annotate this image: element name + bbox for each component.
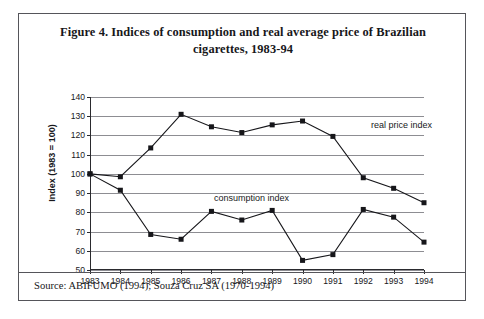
- data-point-marker: [391, 215, 396, 220]
- gridline: [90, 270, 424, 271]
- x-axis-tick-label: 1993: [384, 276, 403, 286]
- data-point-marker: [148, 232, 153, 237]
- figure-container: Figure 4. Indices of consumption and rea…: [18, 13, 466, 301]
- data-point-marker: [361, 207, 366, 212]
- data-point-marker: [422, 200, 427, 205]
- y-axis-tick-label: 120: [71, 130, 85, 140]
- data-point-marker: [118, 174, 123, 179]
- data-point-marker: [300, 119, 305, 124]
- chart: Index (1983 = 100) 140130120110100908070…: [19, 74, 465, 274]
- x-axis-tick-label: 1994: [414, 276, 433, 286]
- data-point-marker: [361, 175, 366, 180]
- plot-area: 1401301201101009080706050 19831984198519…: [90, 97, 424, 270]
- y-axis-tick-label: 140: [71, 92, 85, 102]
- y-axis-tick-label: 60: [75, 246, 85, 256]
- series-label-consumption: consumption index: [214, 193, 289, 203]
- source-divider: [19, 272, 465, 273]
- data-point-marker: [88, 171, 93, 176]
- series-label-real-price: real price index: [371, 120, 432, 130]
- data-point-marker: [118, 188, 123, 193]
- figure-title-line-2: cigarettes, 1983-94: [193, 42, 293, 56]
- x-axis-tick-label: 1992: [354, 276, 373, 286]
- y-axis-title: Index (1983 = 100): [47, 108, 57, 218]
- data-point-marker: [209, 209, 214, 214]
- data-point-marker: [179, 237, 184, 242]
- y-axis-tick-label: 80: [75, 207, 85, 217]
- data-point-marker: [270, 208, 275, 213]
- data-point-marker: [179, 112, 184, 117]
- data-point-marker: [148, 145, 153, 150]
- y-axis-tick-label: 110: [71, 150, 85, 160]
- data-point-marker: [330, 252, 335, 257]
- x-axis-tick-label: 1991: [323, 276, 342, 286]
- x-axis-tick-label: 1990: [293, 276, 312, 286]
- y-axis-tick-label: 70: [75, 227, 85, 237]
- data-point-marker: [391, 186, 396, 191]
- figure-title-line-1: Figure 4. Indices of consumption and rea…: [60, 25, 426, 39]
- y-axis-tick-label: 130: [71, 111, 85, 121]
- y-axis-tick-label: 100: [71, 169, 85, 179]
- data-point-marker: [239, 218, 244, 223]
- data-point-marker: [239, 130, 244, 135]
- source-note: Source: ABIFUMO (1994); Souza Cruz SA (1…: [34, 280, 274, 291]
- data-point-marker: [300, 258, 305, 263]
- data-point-marker: [330, 134, 335, 139]
- y-axis-tick-label: 90: [75, 188, 85, 198]
- data-point-marker: [270, 122, 275, 127]
- data-point-marker: [422, 240, 427, 245]
- series-line: [90, 174, 424, 261]
- data-point-marker: [209, 124, 214, 129]
- figure-title: Figure 4. Indices of consumption and rea…: [33, 24, 453, 58]
- y-axis-tick-label: 50: [75, 265, 85, 275]
